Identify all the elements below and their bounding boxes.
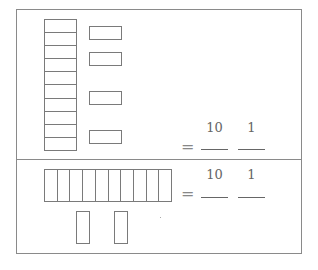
ones-column-label: 1 (238, 121, 265, 135)
ones-unit (76, 211, 90, 244)
tens-column-label: 10 (201, 168, 228, 182)
problem-bottom: 10 1 = (0, 160, 318, 254)
rod-cell (158, 170, 171, 201)
tens-rod-horizontal (44, 169, 172, 202)
ones-unit (89, 26, 122, 40)
rod-cell (45, 58, 76, 71)
ones-unit (114, 211, 128, 244)
ones-column-label: 1 (238, 168, 265, 182)
stray-mark (160, 217, 161, 218)
ones-unit (89, 91, 122, 105)
problem-top: 10 1 = (0, 0, 318, 159)
rod-cell (120, 170, 133, 201)
rod-cell (45, 137, 76, 150)
ones-answer-blank[interactable] (238, 197, 265, 198)
ones-unit (89, 130, 122, 144)
rod-cell (45, 111, 76, 124)
equals-sign: = (181, 186, 194, 202)
rod-cell (45, 98, 76, 111)
tens-answer-blank[interactable] (201, 149, 228, 150)
rod-cell (146, 170, 159, 201)
tens-rod-vertical (44, 19, 77, 151)
rod-cell (95, 170, 108, 201)
rod-cell (82, 170, 95, 201)
tens-answer-blank[interactable] (201, 197, 228, 198)
rod-cell (45, 45, 76, 58)
rod-cell (45, 32, 76, 45)
rod-cell (108, 170, 121, 201)
rod-cell (45, 71, 76, 84)
rod-cell (69, 170, 82, 201)
equals-sign: = (181, 139, 194, 155)
rod-cell (45, 20, 76, 32)
tens-column-label: 10 (201, 121, 228, 135)
ones-unit (89, 52, 122, 66)
ones-answer-blank[interactable] (238, 149, 265, 150)
rod-cell (133, 170, 146, 201)
rod-cell (57, 170, 70, 201)
rod-cell (45, 170, 57, 201)
rod-cell (45, 84, 76, 97)
rod-cell (45, 124, 76, 137)
